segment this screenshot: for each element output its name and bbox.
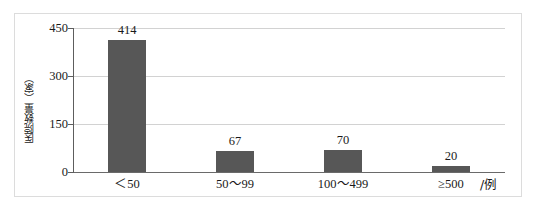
bar-value-label: 67	[229, 135, 242, 147]
x-axis-tick-label: 100～499	[318, 178, 369, 191]
x-axis-line	[73, 172, 505, 173]
y-axis-tick-label-150: 150	[36, 118, 68, 130]
y-axis-title: 医院数量（家）	[24, 52, 40, 164]
plot-area: 414677020	[73, 28, 505, 172]
bar-slot: 70	[289, 28, 397, 172]
bar-chart-figure: 医院数量（家） 450 300 150 0 414677020 /例 ＜5050…	[0, 0, 542, 216]
bar[interactable]	[324, 150, 362, 172]
bar[interactable]	[216, 151, 254, 172]
y-axis-tick-label-300: 300	[36, 70, 68, 82]
y-axis-tick-label-0: 0	[36, 166, 68, 178]
bar-slot: 67	[181, 28, 289, 172]
bar[interactable]	[432, 166, 470, 172]
bar[interactable]	[108, 40, 146, 172]
y-axis-tick-label-450: 450	[36, 22, 68, 34]
bar-value-label: 70	[337, 134, 350, 146]
x-axis-tick-label: ＜50	[114, 178, 140, 191]
bar-value-label: 20	[445, 150, 458, 162]
x-axis-tick-label: 50～99	[216, 178, 254, 191]
x-axis-unit-label: /例	[480, 178, 497, 191]
bar-slot: 20	[397, 28, 505, 172]
bar-slot: 414	[73, 28, 181, 172]
y-axis-tick-mark-0	[68, 172, 74, 173]
bar-value-label: 414	[118, 24, 137, 36]
x-axis-tick-label: ≥500	[438, 178, 464, 191]
